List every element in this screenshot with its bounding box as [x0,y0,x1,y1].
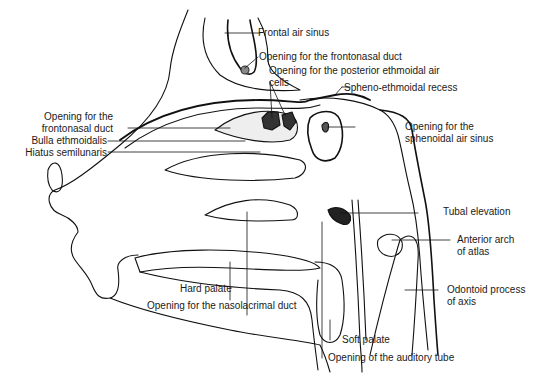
label-odontoid-1: Odontoid process [447,284,525,296]
soft-palate [315,262,344,343]
label-frontal-air-sinus: Frontal air sinus [258,27,329,39]
label-spheno-ethmoidal-recess: Spheno-ethmoidal recess [344,82,457,94]
label-opening-frontonasal-left-2: frontonasal duct [42,123,113,135]
label-opening-sphenoidal-1: Opening for the [405,121,474,133]
tubal-elevation [328,208,351,225]
hard-palate [135,250,320,272]
label-tubal-elevation: Tubal elevation [443,206,510,218]
label-soft-palate: Soft palate [342,334,390,346]
sphenoidal-sinus [308,112,343,161]
label-opening-frontonasal-left-1: Opening for the [44,111,113,123]
label-opening-nasolacrimal: Opening for the nasolacrimal duct [147,300,297,312]
label-opening-auditory-tube: Opening of the auditory tube [328,352,454,364]
label-bulla-ethmoidalis: Bulla ethmoidalis [31,135,107,147]
label-anterior-arch-1: Anterior arch [457,234,514,246]
label-anterior-arch-2: of atlas [457,246,489,258]
inferior-concha [205,200,298,221]
middle-concha [165,153,305,180]
label-opening-sphenoidal-2: sphenoidal air sinus [405,133,493,145]
label-hiatus-semilunaris: Hiatus semilunaris [25,147,107,159]
label-opening-posterior-ethmoidal-1: Opening for the posterior ethmoidal air [269,65,440,77]
label-opening-frontonasal-duct-top: Opening for the frontonasal duct [259,51,402,63]
label-opening-posterior-ethmoidal-2: cells [269,77,289,89]
frontal-sinus [228,20,257,74]
label-hard-palate: Hard palate [180,283,232,295]
label-odontoid-2: of axis [447,296,476,308]
